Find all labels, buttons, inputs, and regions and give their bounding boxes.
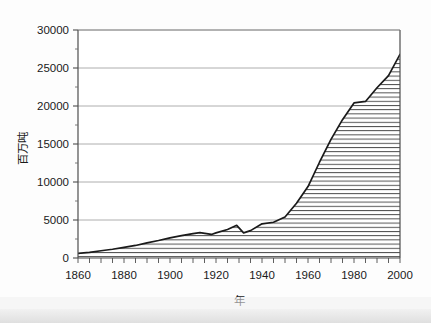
y-tick-label-30000: 30000 <box>37 24 69 36</box>
y-tick-label-25000: 25000 <box>37 62 69 74</box>
x-tick-label-1900: 1900 <box>157 269 183 281</box>
chart-figure: 050001000015000200002500030000 186018801… <box>0 0 431 323</box>
x-tick-label-1920: 1920 <box>203 269 229 281</box>
y-tick-label-5000: 5000 <box>43 214 69 226</box>
x-tick-label-1940: 1940 <box>249 269 275 281</box>
x-tick-label-1880: 1880 <box>111 269 137 281</box>
y-axis-title: 百万吨 <box>17 131 29 165</box>
x-tick-label-1860: 1860 <box>65 269 91 281</box>
x-tick-label-1960: 1960 <box>295 269 321 281</box>
x-axis-title: 年 <box>234 294 245 307</box>
y-tick-label-10000: 10000 <box>37 176 69 188</box>
area-chart: 050001000015000200002500030000 186018801… <box>0 0 431 323</box>
x-tick-label-2000: 2000 <box>387 269 413 281</box>
y-tick-label-15000: 15000 <box>37 138 69 150</box>
y-tick-label-0: 0 <box>63 252 69 264</box>
x-tick-label-1980: 1980 <box>341 269 367 281</box>
y-tick-label-20000: 20000 <box>37 100 69 112</box>
